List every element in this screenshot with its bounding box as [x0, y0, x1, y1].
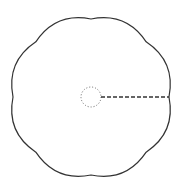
- scalloped-diagram: [0, 0, 183, 191]
